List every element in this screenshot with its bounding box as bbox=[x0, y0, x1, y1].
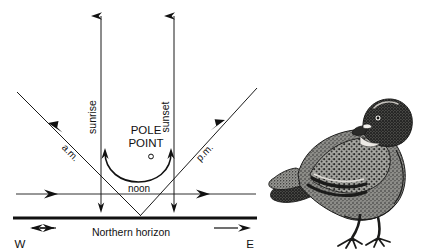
label-noon: noon bbox=[128, 183, 150, 194]
label-northern-horizon: Northern horizon bbox=[92, 226, 170, 238]
figure-root: sunrise sunset POLE POINT a.m. p.m. noon… bbox=[0, 0, 432, 252]
label-pole-point-line2: POINT bbox=[128, 137, 163, 149]
label-pm: p.m. bbox=[194, 142, 215, 164]
label-east: E bbox=[246, 238, 254, 250]
east-arrow bbox=[214, 224, 251, 232]
label-west: W bbox=[15, 238, 26, 250]
sunset-line bbox=[171, 16, 177, 213]
label-sunrise: sunrise bbox=[86, 100, 98, 134]
west-arrow bbox=[30, 224, 56, 232]
noon-arc bbox=[101, 148, 174, 182]
pigeon-body bbox=[269, 99, 413, 248]
label-am: a.m. bbox=[60, 142, 81, 164]
sunrise-line bbox=[98, 16, 104, 213]
label-pole-point-line1: POLE bbox=[131, 124, 162, 136]
sun-compass-diagram: sunrise sunset POLE POINT a.m. p.m. noon… bbox=[0, 0, 270, 252]
pigeon-illustration bbox=[268, 78, 432, 252]
pole-point-marker bbox=[149, 154, 154, 159]
